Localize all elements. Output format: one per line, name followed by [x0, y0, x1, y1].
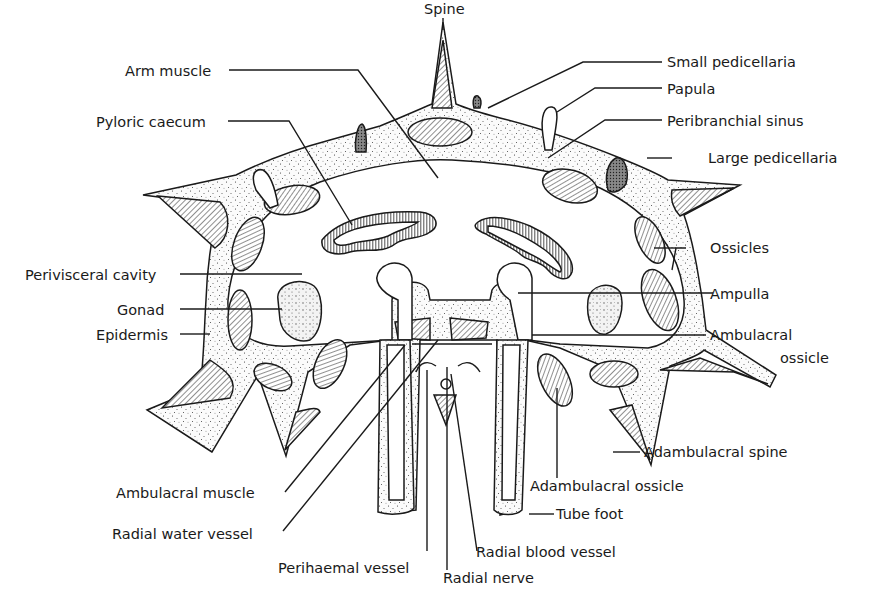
label-perihaemal-vessel: Perihaemal vessel	[278, 560, 409, 576]
label-papula: Papula	[667, 81, 715, 97]
label-large-pedicellaria: Large pedicellaria	[708, 150, 837, 166]
label-ambulacral-ossicle-line2: ossicle	[780, 350, 829, 366]
diagram-canvas: Spine Arm muscle Small pedicellaria Papu…	[0, 0, 882, 596]
label-peribranchial-sinus: Peribranchial sinus	[667, 113, 804, 129]
label-ossicles: Ossicles	[710, 240, 769, 256]
label-radial-blood-vessel: Radial blood vessel	[476, 544, 616, 560]
label-adambulacral-ossicle: Adambulacral ossicle	[530, 478, 684, 494]
label-radial-water-vessel: Radial water vessel	[112, 526, 253, 542]
label-ampulla: Ampulla	[710, 286, 769, 302]
tube-feet	[378, 340, 528, 515]
label-ambulacral-muscle: Ambulacral muscle	[116, 485, 255, 501]
label-ambulacral-ossicle-line1: Ambulacral	[710, 327, 792, 343]
label-adambulacral-spine: Adambulacral spine	[644, 444, 788, 460]
sea-star-arm-cross-section: Spine Arm muscle Small pedicellaria Papu…	[0, 0, 882, 596]
label-epidermis: Epidermis	[96, 327, 168, 343]
label-tube-foot: Tube foot	[555, 506, 623, 522]
label-small-pedicellaria: Small pedicellaria	[667, 54, 796, 70]
label-pyloric-caecum: Pyloric caecum	[96, 114, 206, 130]
label-spine: Spine	[424, 1, 465, 17]
label-arm-muscle: Arm muscle	[125, 63, 211, 79]
label-gonad: Gonad	[117, 302, 164, 318]
label-perivisceral-cavity: Perivisceral cavity	[25, 267, 157, 283]
label-radial-nerve: Radial nerve	[443, 570, 534, 586]
